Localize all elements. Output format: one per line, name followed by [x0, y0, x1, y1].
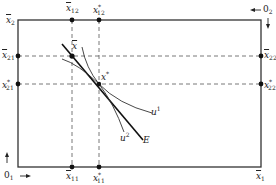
tick-label-x22-star: x*22: [264, 79, 276, 91]
edgeworth-box-frame: [18, 20, 261, 167]
tick-label-x21-star: x*21: [2, 79, 14, 91]
origin-o1-label: 01: [4, 171, 14, 181]
edgeworth-box-diagram: [0, 0, 276, 185]
equilibrium-point-label: x*: [101, 71, 109, 82]
point-x22-bar: [259, 54, 264, 59]
point-x12-star: [97, 18, 102, 23]
arrowhead-right-o1: [26, 174, 31, 178]
arrowhead-up-o1: [5, 152, 9, 157]
tick-label-x11-bar: x11: [66, 172, 79, 182]
curve-label-u1: u1: [151, 106, 161, 117]
point-x21-star: [16, 82, 21, 87]
tick-label-x21-bar: x21: [2, 51, 15, 61]
budget-line-E: [62, 44, 143, 140]
point-x22-star: [259, 82, 264, 87]
point-equilibrium: [97, 82, 101, 86]
axis-label-x1-bar: x1: [256, 172, 265, 182]
point-endowment: [69, 53, 74, 58]
axis-label-x2-bar: x2: [6, 16, 15, 26]
tick-label-x12-star: x*12: [93, 4, 105, 16]
tick-label-x11-star: x*11: [93, 172, 105, 184]
tick-label-x12-bar: x12: [66, 4, 79, 14]
arrowhead-left-o2: [250, 8, 255, 12]
point-x11-star: [97, 165, 102, 170]
point-x12-bar: [70, 18, 75, 23]
tick-label-x22-bar: x22: [264, 51, 276, 61]
point-x21-bar: [16, 54, 21, 59]
curve-label-u2: u2: [120, 132, 130, 143]
indifference-curve-u1: [62, 59, 152, 113]
origin-o2-label: 02: [263, 5, 273, 15]
arrowhead-down-o2: [266, 24, 270, 29]
indifference-curve-u2: [82, 47, 124, 132]
endowment-point-label: x: [72, 42, 77, 51]
curve-label-E: E: [143, 136, 150, 145]
point-x11-bar: [70, 165, 75, 170]
